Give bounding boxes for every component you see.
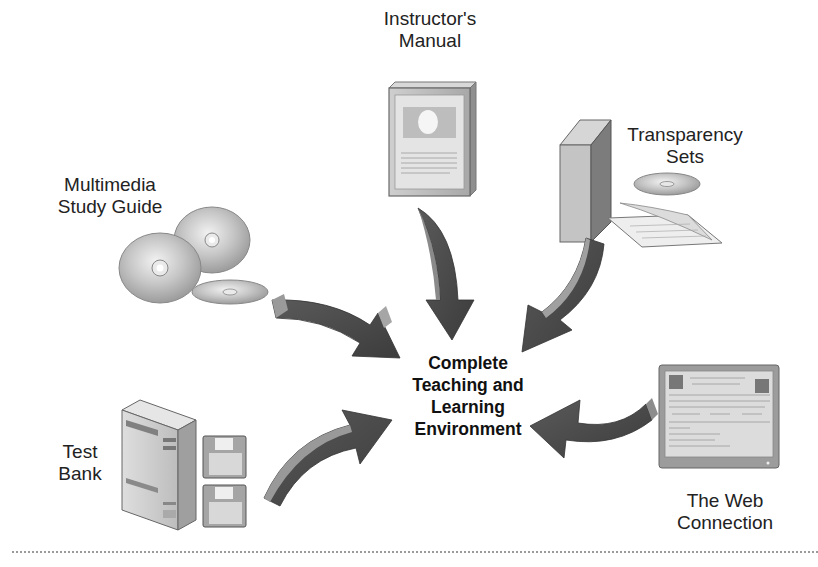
dotted-divider <box>12 551 818 553</box>
label-web-connection: The Web Connection <box>665 490 785 534</box>
monitor-icon <box>659 365 779 468</box>
arrow-from-test-bank <box>264 410 392 506</box>
label-test-bank: Test Bank <box>45 441 115 485</box>
book-icon <box>389 82 476 196</box>
floppy-disk-icon <box>203 436 246 527</box>
arrow-from-web-connection <box>530 398 658 458</box>
computer-tower-icon <box>122 400 196 530</box>
arrow-from-instructors-manual <box>418 208 474 340</box>
label-instructors-manual: Instructor's Manual <box>370 8 490 52</box>
center-label: Complete Teaching and Learning Environme… <box>388 352 548 440</box>
label-multimedia-study-guide: Multimedia Study Guide <box>45 174 175 218</box>
cd-stack-icon <box>119 207 268 304</box>
arrow-from-transparency-sets <box>522 238 604 352</box>
arrow-from-multimedia-study-guide <box>272 294 400 358</box>
label-transparency-sets: Transparency Sets <box>620 124 750 168</box>
diagram-canvas <box>0 0 818 567</box>
